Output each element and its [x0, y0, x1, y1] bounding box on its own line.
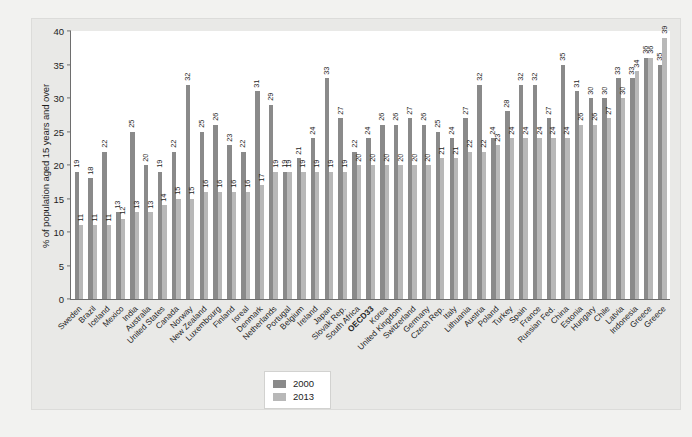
bar-value-label: 24 [522, 126, 529, 134]
bar-y2013[interactable]: 21 [454, 158, 458, 299]
bar-value-label: 26 [393, 113, 400, 121]
bar-y2013[interactable]: 22 [468, 152, 472, 299]
bar-y2013[interactable]: 13 [135, 212, 139, 299]
bar-group[interactable]: 3330 [614, 31, 628, 299]
bar-y2013[interactable]: 19 [287, 172, 291, 299]
bar-group[interactable]: 2220 [350, 31, 364, 299]
bar-group[interactable]: 1911 [72, 31, 86, 299]
bar-group[interactable]: 2420 [364, 31, 378, 299]
bar-y2013[interactable]: 19 [315, 172, 319, 299]
bar-value-label: 24 [448, 126, 455, 134]
bar-y2013[interactable]: 20 [357, 165, 361, 299]
bar-y2013[interactable]: 24 [537, 138, 541, 299]
bar-y2013[interactable]: 20 [371, 165, 375, 299]
bar-value-label: 24 [564, 126, 571, 134]
bar-group[interactable]: 2516 [197, 31, 211, 299]
bar-y2013[interactable]: 16 [232, 192, 236, 299]
bar-y2013[interactable]: 19 [343, 172, 347, 299]
bar-group[interactable]: 1919 [280, 31, 294, 299]
bar-y2013[interactable]: 13 [148, 212, 152, 299]
bar-group[interactable]: 2719 [336, 31, 350, 299]
bar-value-label: 19 [327, 160, 334, 168]
bar-group[interactable]: 3126 [572, 31, 586, 299]
bar-y2013[interactable]: 36 [648, 58, 652, 299]
bar-y2013[interactable]: 15 [190, 199, 194, 300]
bar-y2013[interactable]: 22 [482, 152, 486, 299]
bar-group[interactable]: 3215 [183, 31, 197, 299]
bar-group[interactable]: 1811 [86, 31, 100, 299]
bar-group[interactable]: 2421 [447, 31, 461, 299]
bar-group[interactable]: 2211 [100, 31, 114, 299]
bar-group[interactable]: 2513 [128, 31, 142, 299]
bar-y2013[interactable]: 16 [246, 192, 250, 299]
bar-y2013[interactable]: 23 [496, 145, 500, 299]
bar-y2013[interactable]: 24 [551, 138, 555, 299]
bar-group[interactable]: 3027 [600, 31, 614, 299]
bar-value-label: 19 [286, 160, 293, 168]
bar-group[interactable]: 2620 [419, 31, 433, 299]
chart-legend: 2000 2013 [264, 371, 331, 409]
bar-y2013[interactable]: 14 [162, 205, 166, 299]
bar-y2013[interactable]: 11 [79, 225, 83, 299]
bar-group[interactable]: 3539 [655, 31, 669, 299]
bar-y2013[interactable]: 27 [607, 118, 611, 299]
bar-value-label: 22 [466, 140, 473, 148]
bar-y2013[interactable]: 17 [260, 185, 264, 299]
bar-group[interactable]: 2720 [405, 31, 419, 299]
bar-value-label: 27 [406, 106, 413, 114]
bar-y2013[interactable]: 19 [301, 172, 305, 299]
bar-group[interactable]: 3319 [322, 31, 336, 299]
bar-y2013[interactable]: 19 [273, 172, 277, 299]
bar-y2013[interactable]: 26 [593, 125, 597, 299]
bar-group[interactable]: 3224 [530, 31, 544, 299]
bar-y2013[interactable]: 20 [412, 165, 416, 299]
bar-y2013[interactable]: 11 [93, 225, 97, 299]
bar-y2013[interactable]: 39 [662, 38, 666, 299]
bar-y2013[interactable]: 21 [440, 158, 444, 299]
bar-y2013[interactable]: 16 [218, 192, 222, 299]
bar-y2013[interactable]: 24 [523, 138, 527, 299]
bar-group[interactable]: 2724 [544, 31, 558, 299]
bar-group[interactable]: 2119 [294, 31, 308, 299]
bar-group[interactable]: 2616 [211, 31, 225, 299]
bar-group[interactable]: 3334 [628, 31, 642, 299]
bar-group[interactable]: 3026 [586, 31, 600, 299]
bar-y2013[interactable]: 19 [329, 172, 333, 299]
bar-group[interactable]: 2620 [391, 31, 405, 299]
bar-group[interactable]: 2013 [141, 31, 155, 299]
bar-y2013[interactable]: 30 [621, 98, 625, 299]
bar-group[interactable]: 2620 [378, 31, 392, 299]
bar-y2013[interactable]: 20 [398, 165, 402, 299]
bar-group[interactable]: 3524 [558, 31, 572, 299]
bar-group[interactable]: 2919 [266, 31, 280, 299]
bar-group[interactable]: 2419 [308, 31, 322, 299]
bar-group[interactable]: 3222 [475, 31, 489, 299]
plot-area: 0510152025303540 19111811221113122513201… [70, 31, 670, 299]
bar-group[interactable]: 3117 [253, 31, 267, 299]
bar-y2013[interactable]: 16 [204, 192, 208, 299]
bar-group[interactable]: 1312 [114, 31, 128, 299]
bar-y2013[interactable]: 15 [176, 199, 180, 300]
bar-value-label: 16 [244, 180, 251, 188]
bar-y2013[interactable]: 26 [579, 125, 583, 299]
bar-group[interactable]: 2824 [503, 31, 517, 299]
bar-value-label: 20 [369, 153, 376, 161]
bar-y2013[interactable]: 24 [565, 138, 569, 299]
bar-y2013[interactable]: 20 [385, 165, 389, 299]
bar-value-label: 24 [536, 126, 543, 134]
bar-group[interactable]: 3636 [642, 31, 656, 299]
bar-group[interactable]: 3224 [517, 31, 531, 299]
bar-value-label: 25 [434, 120, 441, 128]
bar-y2013[interactable]: 12 [121, 219, 125, 299]
bar-y2013[interactable]: 20 [426, 165, 430, 299]
bar-group[interactable]: 2521 [433, 31, 447, 299]
bar-group[interactable]: 2215 [169, 31, 183, 299]
bar-group[interactable]: 2316 [225, 31, 239, 299]
bar-group[interactable]: 2722 [461, 31, 475, 299]
bar-group[interactable]: 2423 [489, 31, 503, 299]
bar-group[interactable]: 2216 [239, 31, 253, 299]
bar-group[interactable]: 1914 [155, 31, 169, 299]
bar-y2013[interactable]: 11 [107, 225, 111, 299]
bar-y2013[interactable]: 34 [635, 71, 639, 299]
bar-y2013[interactable]: 24 [510, 138, 514, 299]
